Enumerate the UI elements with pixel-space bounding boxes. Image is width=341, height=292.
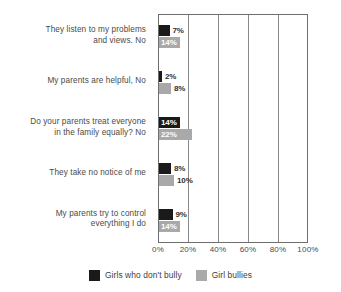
category-label-line: everything I do <box>0 219 146 230</box>
bar-value-label: 10% <box>177 175 193 186</box>
chart-legend: Girls who don't bullyGirl bullies <box>0 266 341 284</box>
bar-value-label: 2% <box>165 71 176 82</box>
bar-value-label: 9% <box>176 209 187 220</box>
category-label: They take no notice of me <box>0 168 146 179</box>
x-tick-0%: 0% <box>152 245 164 254</box>
bar <box>159 163 171 174</box>
gridline-80% <box>278 15 279 242</box>
gridline-40% <box>218 15 219 242</box>
legend-label: Girls who don't bully <box>105 270 182 280</box>
bar-value-label: 7% <box>173 25 184 36</box>
category-label: My parents try to controleverything I do <box>0 209 146 230</box>
legend-item[interactable]: Girls who don't bully <box>89 270 182 281</box>
bar-value-label: 14% <box>161 37 179 48</box>
legend-label: Girl bullies <box>212 270 252 280</box>
legend-item[interactable]: Girl bullies <box>196 270 252 281</box>
bar <box>159 71 162 82</box>
bar <box>159 25 170 36</box>
bar-value-label: 22% <box>161 129 191 140</box>
x-tick-80%: 80% <box>270 245 287 254</box>
bar <box>159 209 173 220</box>
category-label: Do your parents treat everyonein the fam… <box>0 117 146 138</box>
category-label-line: and views. No <box>0 36 146 47</box>
category-label-line: Do your parents treat everyone <box>0 117 146 128</box>
category-label: My parents are helpful, No <box>0 76 146 87</box>
bar-value-label: 8% <box>174 83 185 94</box>
category-label: They listen to my problemsand views. No <box>0 25 146 46</box>
bar <box>159 175 174 186</box>
bar-value-label: 14% <box>161 117 179 128</box>
legend-swatch-icon <box>89 270 100 281</box>
legend-swatch-icon <box>196 270 207 281</box>
x-tick-100%: 100% <box>297 245 318 254</box>
x-tick-20%: 20% <box>180 245 197 254</box>
bar-value-label: 8% <box>174 163 185 174</box>
bar-chart: They listen to my problemsand views. NoM… <box>0 0 341 292</box>
x-axis-tick-labels: 0%20%40%60%80%100% <box>158 245 308 259</box>
x-tick-40%: 40% <box>210 245 227 254</box>
category-label-line: My parents try to control <box>0 209 146 220</box>
bar <box>159 83 171 94</box>
category-label-line: in the family equally? No <box>0 128 146 139</box>
category-label-line: They listen to my problems <box>0 25 146 36</box>
plot-area: 7%14%2%8%14%22%8%10%9%14% <box>158 14 308 243</box>
category-axis-labels: They listen to my problemsand views. NoM… <box>0 14 152 243</box>
bar-value-label: 14% <box>161 221 179 232</box>
gridline-60% <box>248 15 249 242</box>
category-label-line: My parents are helpful, No <box>0 76 146 87</box>
x-tick-60%: 60% <box>240 245 257 254</box>
category-label-line: They take no notice of me <box>0 168 146 179</box>
